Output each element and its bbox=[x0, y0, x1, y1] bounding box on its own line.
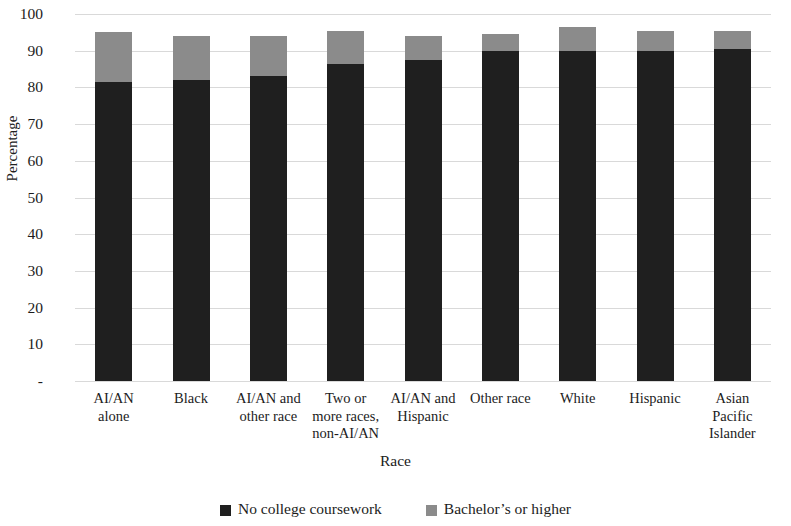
x-axis-category-label: Two ormore races,non-AI/AN bbox=[302, 390, 390, 443]
x-axis-category-label: White bbox=[534, 390, 622, 408]
bar-segment-bachelors-or-higher[interactable] bbox=[637, 31, 674, 51]
bar-segment-no-college-coursework[interactable] bbox=[637, 51, 674, 381]
bar-segment-bachelors-or-higher[interactable] bbox=[95, 32, 132, 82]
legend-label: No college coursework bbox=[238, 500, 382, 518]
y-axis-tick-label: 40 bbox=[0, 226, 43, 242]
bar-segment-no-college-coursework[interactable] bbox=[405, 60, 442, 381]
x-axis-category-label-line: AI/AN and bbox=[379, 390, 467, 408]
bar-segment-bachelors-or-higher[interactable] bbox=[559, 27, 596, 51]
x-axis-category-label: AI/AN andother race bbox=[224, 390, 312, 425]
legend-item[interactable]: No college coursework bbox=[220, 500, 382, 518]
x-axis-category-label-line: Islander bbox=[688, 425, 776, 443]
bar-segment-bachelors-or-higher[interactable] bbox=[250, 36, 287, 76]
x-axis-category-label-line: more races, bbox=[302, 408, 390, 426]
bar-segment-no-college-coursework[interactable] bbox=[95, 82, 132, 381]
gridline bbox=[75, 14, 771, 15]
x-axis-category-label-line: Black bbox=[147, 390, 235, 408]
y-axis-tick-label: 100 bbox=[0, 6, 43, 22]
x-axis-category-label-line: Pacific bbox=[688, 408, 776, 426]
legend-swatch-icon bbox=[426, 505, 437, 516]
x-axis-category-label: AI/AN andHispanic bbox=[379, 390, 467, 425]
y-axis-tick-label: 10 bbox=[0, 337, 43, 353]
x-axis-category-label-line: Other race bbox=[456, 390, 544, 408]
x-axis-category-label-line: alone bbox=[70, 408, 158, 426]
stacked-bar-chart: Percentage 100908070605040302010- AI/ANa… bbox=[0, 0, 791, 526]
x-axis-title: Race bbox=[0, 452, 791, 470]
legend-label: Bachelor’s or higher bbox=[444, 500, 571, 518]
x-axis-category-label-line: Hispanic bbox=[379, 408, 467, 426]
bar-segment-no-college-coursework[interactable] bbox=[250, 76, 287, 381]
x-axis-category-label-line: other race bbox=[224, 408, 312, 426]
chart-legend: No college courseworkBachelor’s or highe… bbox=[0, 500, 791, 518]
x-axis-category-label-line: non-AI/AN bbox=[302, 425, 390, 443]
bar-segment-bachelors-or-higher[interactable] bbox=[405, 36, 442, 60]
x-axis-category-label-line: AI/AN bbox=[70, 390, 158, 408]
plot-area: 100908070605040302010- bbox=[75, 14, 771, 381]
x-axis-category-label-line: AI/AN and bbox=[224, 390, 312, 408]
bar-segment-no-college-coursework[interactable] bbox=[482, 51, 519, 381]
bar-segment-bachelors-or-higher[interactable] bbox=[327, 31, 364, 64]
legend-item[interactable]: Bachelor’s or higher bbox=[426, 500, 571, 518]
bar-segment-bachelors-or-higher[interactable] bbox=[714, 31, 751, 49]
legend-swatch-icon bbox=[220, 505, 231, 516]
bar-segment-no-college-coursework[interactable] bbox=[559, 51, 596, 381]
bar-segment-bachelors-or-higher[interactable] bbox=[482, 34, 519, 51]
y-axis-tick-label: 20 bbox=[0, 300, 43, 316]
x-axis-category-label-line: Asian bbox=[688, 390, 776, 408]
x-axis-category-label: AI/ANalone bbox=[70, 390, 158, 425]
y-axis-tick-label: 90 bbox=[0, 43, 43, 59]
x-axis-category-label-line: Hispanic bbox=[611, 390, 699, 408]
bar-segment-bachelors-or-higher[interactable] bbox=[173, 36, 210, 80]
x-axis-category-label-line: Two or bbox=[302, 390, 390, 408]
y-axis-tick-label: - bbox=[0, 373, 43, 389]
y-axis-tick-label: 50 bbox=[0, 190, 43, 206]
y-axis-tick-label: 60 bbox=[0, 153, 43, 169]
x-axis-category-label: Other race bbox=[456, 390, 544, 408]
y-axis-tick-label: 70 bbox=[0, 116, 43, 132]
bar-segment-no-college-coursework[interactable] bbox=[173, 80, 210, 381]
y-axis-tick-label: 30 bbox=[0, 263, 43, 279]
x-axis-category-label-line: White bbox=[534, 390, 622, 408]
x-axis-category-label: Black bbox=[147, 390, 235, 408]
x-axis-category-label: Hispanic bbox=[611, 390, 699, 408]
x-axis-category-label: AsianPacificIslander bbox=[688, 390, 776, 443]
gridline bbox=[75, 381, 771, 382]
bar-segment-no-college-coursework[interactable] bbox=[714, 49, 751, 381]
y-axis-tick-label: 80 bbox=[0, 80, 43, 96]
bar-segment-no-college-coursework[interactable] bbox=[327, 64, 364, 381]
